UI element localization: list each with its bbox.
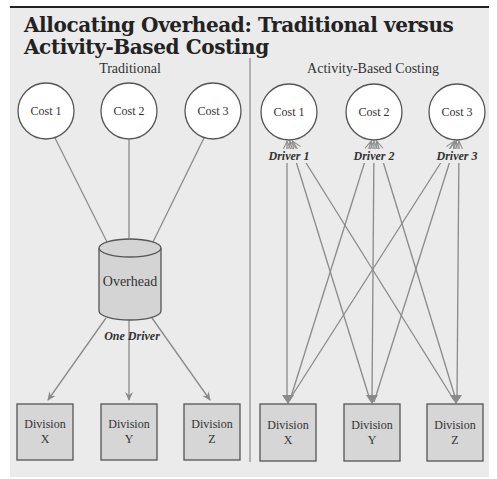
abc-division-z: Division Z bbox=[427, 404, 483, 461]
driver-3-label: Driver 3 bbox=[436, 149, 478, 163]
abc-heading: Activity-Based Costing bbox=[307, 61, 439, 76]
abc-cost-3: Cost 3 bbox=[429, 84, 485, 140]
traditional-heading: Traditional bbox=[99, 61, 161, 76]
svg-text:Cost 3: Cost 3 bbox=[197, 104, 228, 118]
svg-text:Y: Y bbox=[368, 433, 377, 447]
svg-text:Cost 2: Cost 2 bbox=[358, 105, 389, 119]
svg-text:Z: Z bbox=[208, 432, 215, 446]
diagram: Traditional Activity-Based Costing Cost … bbox=[0, 0, 497, 479]
abc-lines bbox=[287, 142, 459, 402]
driver-1-label: Driver 1 bbox=[268, 149, 310, 163]
abc-cost-1: Cost 1 bbox=[261, 84, 317, 140]
svg-text:Division: Division bbox=[108, 417, 149, 431]
svg-text:Division: Division bbox=[191, 417, 232, 431]
svg-text:Division: Division bbox=[267, 418, 308, 432]
traditional-division-y: Division Y bbox=[101, 404, 157, 460]
abc-arrowheads bbox=[282, 395, 462, 404]
traditional-cost-3: Cost 3 bbox=[185, 83, 241, 139]
abc-division-y: Division Y bbox=[344, 404, 400, 461]
svg-text:Division: Division bbox=[351, 418, 392, 432]
svg-text:Cost 1: Cost 1 bbox=[30, 104, 61, 118]
abc-cost-2: Cost 2 bbox=[346, 84, 402, 140]
traditional-division-z: Division Z bbox=[184, 404, 240, 460]
one-driver-label: One Driver bbox=[104, 329, 160, 343]
traditional-cost-1: Cost 1 bbox=[18, 83, 74, 139]
svg-text:Cost 1: Cost 1 bbox=[273, 105, 304, 119]
svg-text:Y: Y bbox=[125, 432, 134, 446]
svg-text:Z: Z bbox=[451, 433, 458, 447]
svg-text:Cost 2: Cost 2 bbox=[113, 104, 144, 118]
svg-text:Division: Division bbox=[434, 418, 475, 432]
overhead-label: Overhead bbox=[103, 274, 157, 289]
overhead-cylinder: Overhead bbox=[99, 239, 161, 320]
svg-text:Division: Division bbox=[24, 417, 65, 431]
driver-2-label: Driver 2 bbox=[353, 149, 395, 163]
abc-division-x: Division X bbox=[260, 404, 316, 461]
svg-text:X: X bbox=[284, 433, 293, 447]
svg-text:X: X bbox=[41, 432, 50, 446]
traditional-division-x: Division X bbox=[17, 404, 73, 460]
svg-text:Cost 3: Cost 3 bbox=[441, 105, 472, 119]
traditional-cost-2: Cost 2 bbox=[101, 83, 157, 139]
